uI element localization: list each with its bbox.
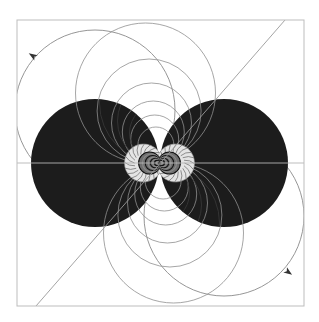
arrow-icon: [27, 51, 38, 61]
plot-area: [15, 20, 304, 306]
field-diagram: [0, 0, 319, 322]
arrow-icon: [283, 267, 294, 277]
